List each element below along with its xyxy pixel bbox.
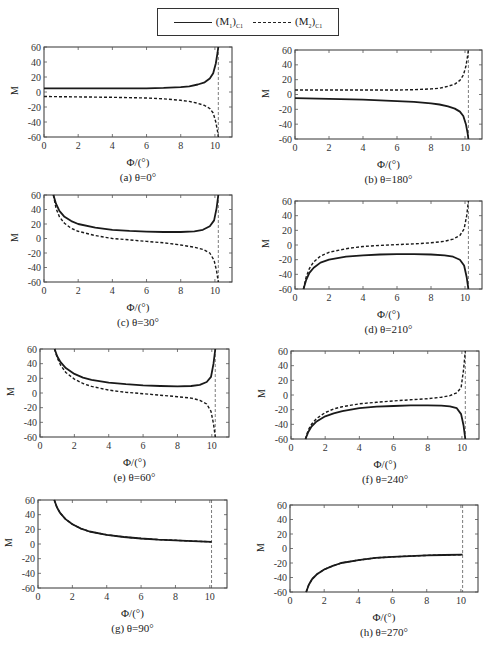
x-tick-label: 4 <box>356 595 361 606</box>
x-tick-label: 8 <box>424 595 429 606</box>
y-tick-label: 60 <box>277 500 287 511</box>
x-tick-label: 2 <box>322 595 327 606</box>
y-tick-label: -40 <box>274 572 287 583</box>
y-tick-label: -20 <box>274 558 287 569</box>
x-axis-label: Φ/(°) <box>344 611 424 623</box>
x-tick-label: 10 <box>456 595 466 606</box>
x-tick-label: 6 <box>390 595 395 606</box>
y-axis-label: M <box>255 543 266 552</box>
x-tick-label: 0 <box>288 595 293 606</box>
series-m2-line <box>306 555 462 592</box>
series-m1-line <box>306 555 462 592</box>
plot-area: 02468106040200-20-40-60 <box>0 0 488 650</box>
y-tick-label: 0 <box>282 543 287 554</box>
plot-frame <box>290 505 478 592</box>
y-tick-label: 40 <box>277 514 287 525</box>
y-tick-label: -60 <box>274 587 287 598</box>
y-tick-label: 20 <box>277 529 287 540</box>
panel-caption: (h) θ=270° <box>324 626 444 638</box>
